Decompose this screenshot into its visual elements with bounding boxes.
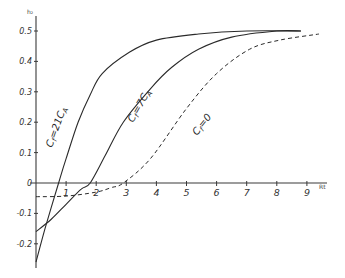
axis-ticks: 0.50.40.30.20.10-0.1-0.2123456789 xyxy=(16,27,310,249)
series-line-0 xyxy=(36,31,301,262)
y-tick-label: 0 xyxy=(27,179,32,188)
chart: 0.50.40.30.20.10-0.1-0.2123456789 h₂ Rt … xyxy=(0,0,345,278)
x-tick-label: 4 xyxy=(153,187,159,198)
y-tick-label: 0.3 xyxy=(19,88,32,97)
series-layer xyxy=(36,31,319,262)
series-line-2 xyxy=(36,34,319,197)
y-tick-label: -0.1 xyxy=(16,209,32,218)
y-tick-label: 0.1 xyxy=(19,149,32,158)
annotation-cf-21ca: Cf=21CA xyxy=(44,105,71,149)
series-line-1 xyxy=(36,31,301,232)
y-tick-label: 0.5 xyxy=(19,27,32,36)
x-tick-label: 6 xyxy=(214,187,220,198)
y-tick-label: 0.2 xyxy=(19,118,32,127)
x-tick-label: 9 xyxy=(304,187,310,198)
svg-text:Cf=21CA: Cf=21CA xyxy=(44,105,71,149)
y-tick-label: 0.4 xyxy=(19,57,32,66)
x-tick-label: 7 xyxy=(244,187,250,198)
x-tick-label: 3 xyxy=(123,187,129,198)
y-tick-label: -0.2 xyxy=(16,240,32,249)
x-tick-label: 5 xyxy=(183,187,189,198)
x-axis-label: Rt xyxy=(319,183,326,190)
x-tick-label: 8 xyxy=(274,187,280,198)
axes xyxy=(30,16,327,268)
y-axis-label: h₂ xyxy=(27,8,34,15)
svg-text:Cf=0: Cf=0 xyxy=(190,111,215,138)
annotation-cf-7ca: Cf=7CA xyxy=(125,87,154,125)
svg-text:Cf=7CA: Cf=7CA xyxy=(125,87,154,125)
annotation-cf-0: Cf=0 xyxy=(190,111,215,138)
